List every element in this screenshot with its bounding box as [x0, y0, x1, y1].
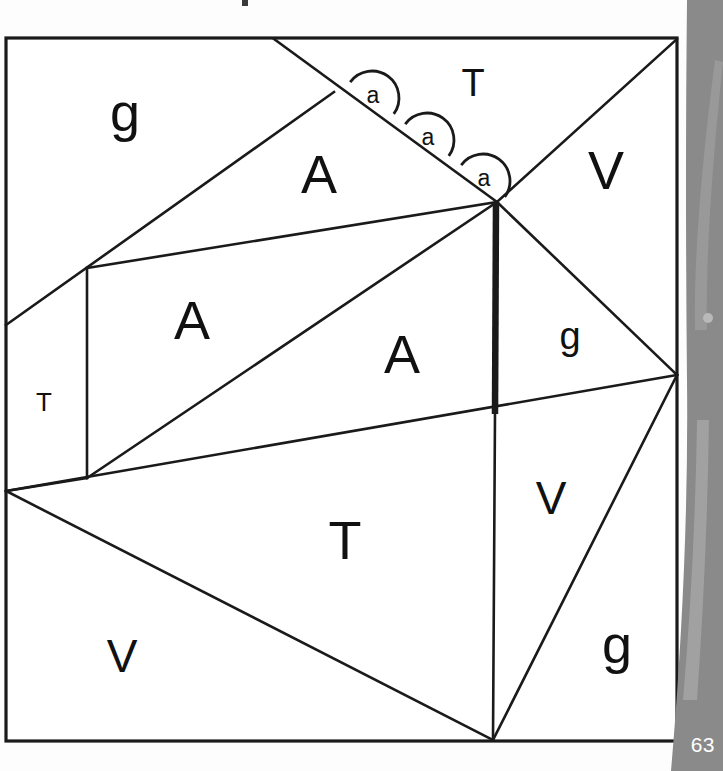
figure-page: aaa gTAVAAgTVTVg 63	[0, 0, 723, 771]
region-label-T-bottom: T	[329, 510, 362, 570]
region-label-T-top: T	[461, 62, 484, 104]
page-number: 63	[691, 733, 715, 757]
edge-apex-vertical-thick	[495, 202, 496, 414]
region-label-V-upper-right: V	[588, 140, 624, 200]
region-label-T-left: T	[36, 387, 52, 417]
region-label-V-lower-right: V	[536, 472, 567, 524]
region-label-g-top-left: g	[110, 82, 140, 142]
region-label-g-bottom-right: g	[602, 614, 632, 674]
geometry-figure: aaa gTAVAAgTVTVg	[0, 0, 723, 771]
figure-thick-edges	[495, 202, 496, 414]
angle-2-label: a	[422, 124, 435, 150]
region-label-A-upper: A	[301, 144, 337, 204]
region-label-V-bottom-left: V	[107, 630, 138, 682]
region-label-A-mid-left: A	[174, 290, 210, 350]
region-label-A-center: A	[384, 324, 420, 384]
region-label-g-right: g	[559, 315, 580, 357]
angle-3-label: a	[478, 165, 491, 191]
angle-1-label: a	[367, 82, 380, 108]
